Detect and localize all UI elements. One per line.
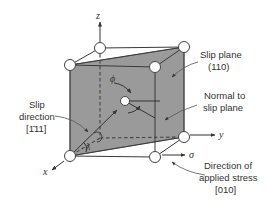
slip-plane-label: Slip plane (200, 49, 242, 60)
z-axis-label: z (95, 10, 100, 21)
atom-top-front-left (65, 60, 76, 71)
x-axis-label: x (42, 166, 48, 177)
slip-direction-index: [1̄11] (26, 123, 46, 134)
phi-label: ϕ (110, 73, 115, 84)
slip-plane-index: (110) (208, 61, 229, 72)
stress-label-2: applied stress (199, 172, 258, 183)
atom-top-back-right (179, 42, 190, 53)
atom-body-center (121, 97, 130, 106)
slip-direction-label-2: direction (19, 111, 55, 122)
y-axis-label: y (218, 129, 224, 140)
x-axis-arrow (52, 161, 64, 170)
atom-top-front-right (150, 62, 161, 73)
stress-label-1: Direction of (204, 160, 252, 171)
normal-label-1: Normal to (204, 90, 245, 101)
sigma-label: σ (189, 149, 195, 160)
slip-direction-label-1: Slip (29, 99, 45, 110)
lambda-label: λ (85, 141, 91, 152)
atom-top-back-left (95, 43, 106, 54)
atom-bottom-front-right (150, 152, 161, 163)
slip-system-diagram: z y x σ ϕ λ Slip plane (0, 0, 267, 204)
stress-index: [010] (215, 184, 236, 195)
atom-bottom-back-right (179, 132, 190, 143)
normal-label-2: slip plane (203, 102, 243, 113)
atom-bottom-front-left (65, 151, 76, 162)
